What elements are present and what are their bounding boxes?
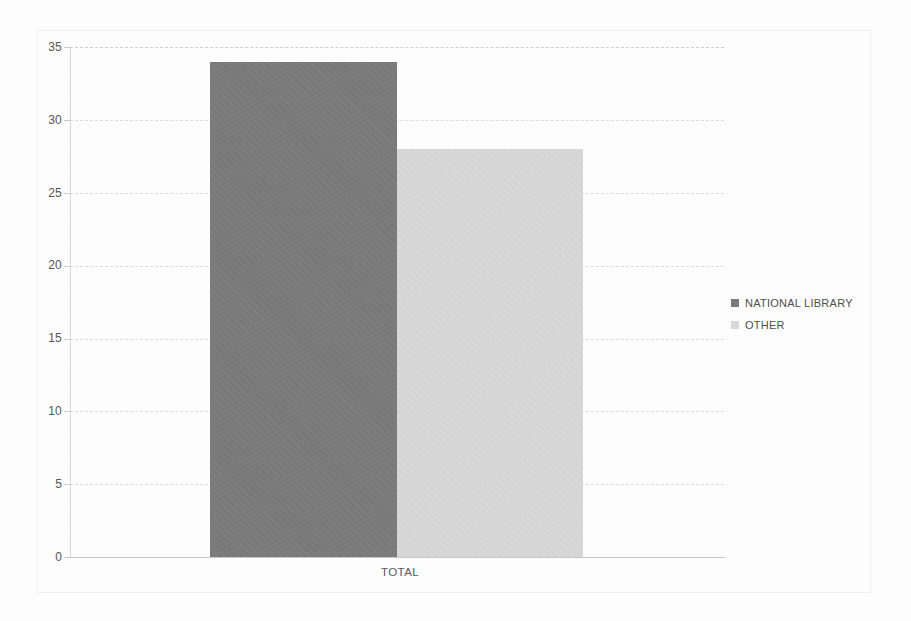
legend-item-label: OTHER (745, 319, 785, 331)
x-axis-line (70, 557, 725, 558)
legend-item-other: OTHER (731, 315, 891, 335)
y-tick-label: 5 (22, 477, 62, 491)
y-tick-label: 30 (22, 113, 62, 127)
legend-item-national-library: NATIONAL LIBRARY (731, 293, 891, 313)
y-axis-line (70, 47, 71, 558)
y-tick-label: 0 (22, 550, 62, 564)
y-tick-label: 10 (22, 404, 62, 418)
bar-chart: 35 30 25 20 15 10 5 0 TOTAL NATIONAL LIB… (0, 0, 911, 621)
bar-other (397, 149, 583, 557)
legend: NATIONAL LIBRARY OTHER (731, 293, 891, 337)
legend-swatch-icon (731, 299, 739, 307)
plot-area (70, 47, 724, 557)
y-tick-label: 35 (22, 40, 62, 54)
legend-item-label: NATIONAL LIBRARY (745, 297, 853, 309)
y-tick-label: 20 (22, 258, 62, 272)
x-tick-label-total: TOTAL (340, 566, 460, 578)
legend-swatch-icon (731, 321, 739, 329)
bar-national-library (210, 62, 397, 557)
gridline-30 (70, 120, 724, 121)
y-axis-tick-labels: 35 30 25 20 15 10 5 0 (18, 0, 62, 621)
gridline-35 (70, 47, 724, 48)
y-tick-label: 15 (22, 331, 62, 345)
y-tick-label: 25 (22, 186, 62, 200)
